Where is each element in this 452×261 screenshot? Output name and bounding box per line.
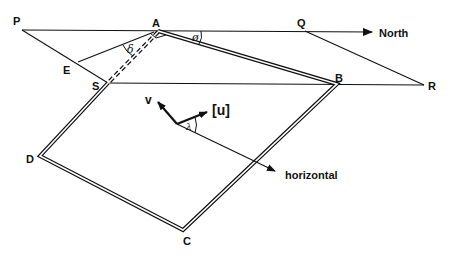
lambda-angle-arc: [195, 117, 197, 133]
point-label-q: Q: [297, 17, 306, 29]
point-label-a: A: [152, 17, 160, 29]
point-label-d: D: [26, 153, 34, 165]
dip-line-a-s: [108, 32, 158, 83]
phi-label: ø: [191, 31, 199, 44]
point-label-c: C: [183, 235, 191, 247]
v-vector-arrow: [158, 102, 177, 124]
delta-label: δ: [127, 43, 134, 56]
fault-plane-diagram: ø δ λ v [u] P A Q R B S E D C North hori…: [0, 0, 452, 261]
line-q-r: [305, 31, 424, 85]
point-label-e: E: [63, 64, 70, 76]
point-label-s: S: [92, 80, 99, 92]
north-label: North: [379, 27, 409, 39]
point-label-r: R: [428, 80, 436, 92]
v-vector-label: v: [145, 93, 152, 107]
u-vector-arrow: [177, 112, 207, 124]
u-vector-label: [u]: [212, 102, 230, 118]
horizontal-label: horizontal: [285, 169, 338, 181]
point-label-b: B: [335, 72, 343, 84]
lambda-label: λ: [185, 122, 192, 132]
point-label-p: P: [13, 15, 20, 27]
horizontal-line-sr: [108, 83, 424, 85]
